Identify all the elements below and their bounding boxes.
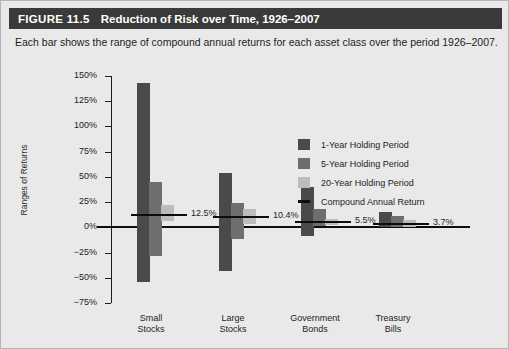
figure-panel: FIGURE 11.5 Reduction of Risk over Time,… (0, 0, 509, 349)
category-label-line: Treasury (357, 313, 429, 324)
category-label-line: Bills (357, 324, 429, 335)
plot-area: Ranges of Returns 150%125%100%75%50%25%0… (1, 57, 509, 349)
y-axis-title: Ranges of Returns (19, 135, 29, 225)
legend-label: 20-Year Holding Period (321, 178, 414, 188)
legend-item: Compound Annual Return (298, 192, 488, 211)
legend-item: 5-Year Holding Period (298, 154, 488, 173)
y-axis-tick-label: 75% (51, 146, 97, 156)
compound-annual-return-label: 10.4% (273, 210, 299, 220)
category-label: GovernmentBonds (279, 313, 351, 335)
y-axis-tick-label: 25% (51, 196, 97, 206)
y-axis-tick-label: 0% (51, 221, 97, 231)
figure-subtitle: Each bar shows the range of compound ann… (15, 36, 500, 48)
figure-title: Reduction of Risk over Time, 1926–2007 (101, 13, 320, 25)
category-label-line: Small (115, 313, 187, 324)
compound-annual-return-line (295, 221, 351, 223)
y-axis-tick-label: −75% (51, 297, 97, 307)
compound-annual-return-line (373, 223, 429, 225)
legend-color-swatch (298, 139, 310, 150)
figure-number: FIGURE 11.5 (18, 13, 90, 25)
category-label-line: Stocks (115, 324, 187, 335)
category-label-line: Stocks (197, 324, 269, 335)
figure-title-bar: FIGURE 11.5 Reduction of Risk over Time,… (9, 8, 502, 29)
y-axis-tick-label: −25% (51, 247, 97, 257)
y-axis-tick-labels: 150%125%100%75%50%25%0%−25%−50%−75% (51, 57, 97, 349)
y-axis-tick-label: 125% (51, 95, 97, 105)
legend-label: Compound Annual Return (321, 197, 425, 207)
y-axis-tick-label: 100% (51, 120, 97, 130)
legend-item: 1-Year Holding Period (298, 135, 488, 154)
compound-annual-return-line (131, 214, 187, 216)
legend-label: 5-Year Holding Period (321, 159, 409, 169)
category-label-line: Government (279, 313, 351, 324)
compound-annual-return-line (213, 216, 269, 218)
legend-color-swatch (298, 177, 310, 188)
category-label: LargeStocks (197, 313, 269, 335)
legend-color-swatch (298, 158, 310, 169)
category-label: TreasuryBills (357, 313, 429, 335)
legend-line-marker (298, 200, 310, 203)
legend-label: 1-Year Holding Period (321, 140, 409, 150)
y-axis-tick-label: 150% (51, 70, 97, 80)
y-axis-tick-label: 50% (51, 171, 97, 181)
chart-legend: 1-Year Holding Period5-Year Holding Peri… (298, 135, 488, 211)
legend-item: 20-Year Holding Period (298, 173, 488, 192)
category-label-line: Bonds (279, 324, 351, 335)
category-label-line: Large (197, 313, 269, 324)
compound-annual-return-label: 3.7% (433, 217, 454, 227)
category-label: SmallStocks (115, 313, 187, 335)
y-axis-tick-label: −50% (51, 272, 97, 282)
